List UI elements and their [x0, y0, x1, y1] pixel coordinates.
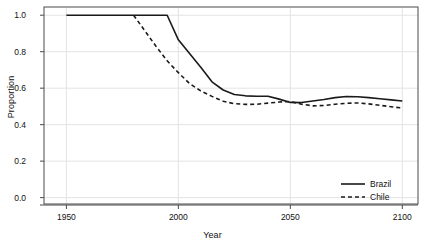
legend-line-swatch-icon — [340, 191, 366, 203]
y-tick-label-text: 0.8 — [0, 47, 26, 57]
chart-figure: 0.00.20.40.60.81.0 1950200020502100 Prop… — [0, 0, 425, 244]
plot-panel-background — [44, 7, 418, 204]
x-tick-label: 2050 — [265, 212, 315, 222]
x-tick-label: 2100 — [377, 212, 425, 222]
chart-legend: BrazilChile — [340, 177, 391, 203]
x-tick-label: 2000 — [153, 212, 203, 222]
y-axis-title: Proportion — [6, 62, 16, 132]
y-tick-label-text: 0.2 — [0, 156, 26, 166]
legend-label: Chile — [370, 192, 389, 202]
x-tick-label: 1950 — [41, 212, 91, 222]
y-tick-label-text: 0.0 — [0, 193, 26, 203]
legend-item-brazil[interactable]: Brazil — [340, 177, 391, 190]
plot-canvas — [0, 0, 425, 244]
legend-line-swatch-icon — [340, 178, 366, 190]
legend-item-chile[interactable]: Chile — [340, 190, 391, 203]
y-tick-label-text: 1.0 — [0, 10, 26, 20]
legend-label: Brazil — [370, 179, 391, 189]
x-axis-title: Year — [0, 230, 425, 240]
